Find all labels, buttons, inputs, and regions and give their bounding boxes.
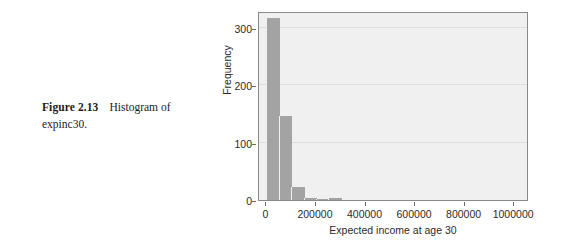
histogram-bar — [328, 198, 341, 200]
x-tick-mark — [365, 202, 366, 206]
figure-caption: Figure 2.13Histogram of expinc30. — [42, 99, 207, 132]
x-tick-label: 800000 — [446, 208, 481, 220]
y-tick-mark — [252, 86, 256, 87]
x-tick-label: 600000 — [397, 208, 432, 220]
x-tick-mark — [315, 202, 316, 206]
histogram-bar — [316, 199, 329, 200]
gridline — [259, 84, 527, 85]
x-tick-label: 200000 — [297, 208, 332, 220]
figure-number: Figure 2.13 — [42, 101, 98, 113]
x-tick-mark — [464, 202, 465, 206]
y-tick-mark — [252, 201, 256, 202]
y-tick-label: 200 — [218, 81, 252, 91]
y-tick-mark — [252, 144, 256, 145]
y-tick-label: 0 — [218, 196, 252, 206]
gridline — [259, 142, 527, 143]
histogram-bar — [304, 198, 317, 200]
x-tick-mark — [513, 202, 514, 206]
y-axis: 0100200300 — [196, 6, 252, 244]
histogram-bar — [291, 187, 304, 200]
histogram-figure: Frequency 0100200300 0200000400000600000… — [196, 6, 546, 244]
histogram-bar — [279, 116, 292, 200]
x-axis-title: Expected income at age 30 — [258, 224, 528, 236]
gridline — [259, 27, 527, 28]
x-tick-mark — [265, 202, 266, 206]
histogram-bar — [266, 18, 279, 200]
plot-panel — [258, 12, 528, 201]
x-tick-label: 0 — [263, 208, 269, 220]
x-tick-label: 1000000 — [493, 208, 534, 220]
y-tick-label: 100 — [218, 139, 252, 149]
y-tick-mark — [252, 29, 256, 30]
x-tick-mark — [414, 202, 415, 206]
x-tick-label: 400000 — [347, 208, 382, 220]
y-tick-label: 300 — [218, 24, 252, 34]
